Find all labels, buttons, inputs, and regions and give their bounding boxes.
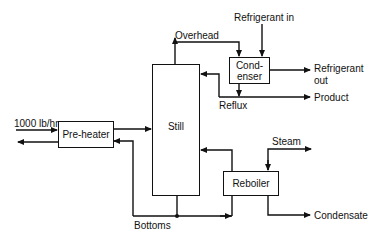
preheater-label: Pre-heater [62, 129, 109, 140]
condensate-label: Condensate [314, 210, 368, 221]
bottoms-label: Bottoms [134, 220, 171, 231]
reboiler-box: Reboiler [223, 171, 279, 196]
still-label: Still [168, 121, 184, 132]
refrigerant-out-label-line2: out [314, 75, 328, 86]
condenser-box: Cond- enser [229, 57, 270, 84]
condenser-label-line1: Cond- [236, 60, 263, 71]
feed-label: 1000 lb/hr [14, 118, 58, 129]
reboiler-label: Reboiler [232, 178, 269, 189]
steam-label: Steam [272, 136, 301, 147]
product-label: Product [314, 92, 348, 103]
still-box: Still [152, 64, 200, 196]
overhead-label: Overhead [175, 30, 219, 41]
preheater-box: Pre-heater [58, 121, 114, 148]
reflux-label: Reflux [219, 100, 247, 111]
refrigerant-in-label: Refrigerant in [234, 12, 294, 23]
refrigerant-out-label-line1: Refrigerant [314, 63, 363, 74]
condenser-label-line2: enser [237, 71, 262, 82]
